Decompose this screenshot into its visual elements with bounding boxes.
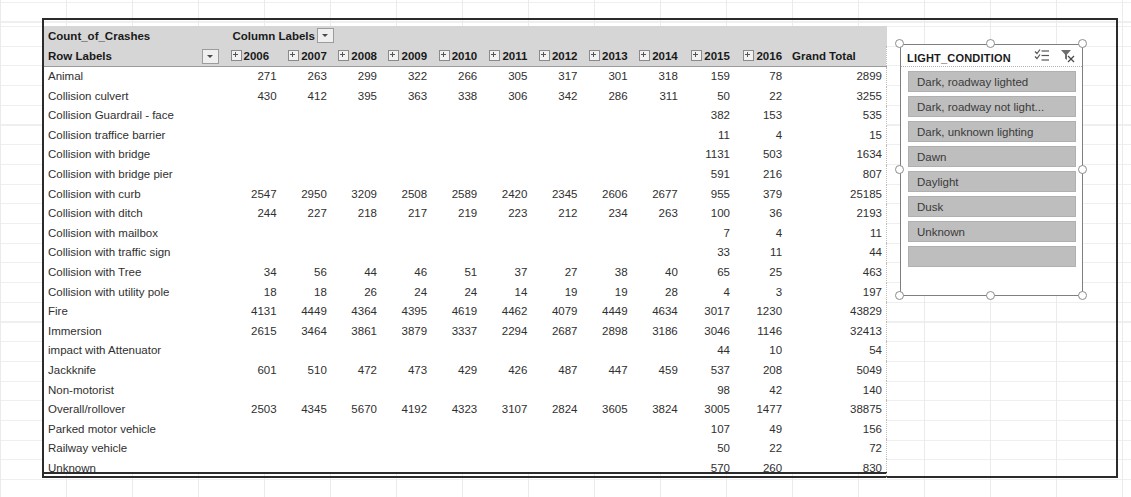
data-cell[interactable]: 234 xyxy=(582,204,632,224)
data-cell[interactable] xyxy=(531,420,581,440)
data-cell[interactable] xyxy=(481,420,531,440)
data-cell[interactable] xyxy=(381,126,431,146)
data-cell[interactable]: 65 xyxy=(682,263,734,283)
data-cell[interactable]: 44 xyxy=(331,263,381,283)
resize-handle-top-right[interactable] xyxy=(1078,39,1087,48)
data-cell[interactable]: 50 xyxy=(682,87,734,107)
data-cell[interactable] xyxy=(582,341,632,361)
data-cell[interactable] xyxy=(381,439,431,459)
data-cell[interactable]: 38 xyxy=(582,263,632,283)
table-row[interactable]: Collision with mailbox7411 xyxy=(44,224,887,244)
data-cell[interactable]: 395 xyxy=(331,87,381,107)
data-cell[interactable]: 591 xyxy=(682,165,734,185)
data-cell[interactable] xyxy=(582,126,632,146)
data-cell[interactable]: 447 xyxy=(582,361,632,381)
data-cell[interactable] xyxy=(481,165,531,185)
data-cell[interactable] xyxy=(531,126,581,146)
data-cell[interactable]: 3861 xyxy=(331,322,381,342)
data-cell[interactable]: 25 xyxy=(734,263,786,283)
data-cell[interactable]: 299 xyxy=(331,67,381,87)
row-grand-total-cell[interactable]: 197 xyxy=(786,283,886,303)
data-cell[interactable]: 2898 xyxy=(582,322,632,342)
data-cell[interactable] xyxy=(225,420,281,440)
resize-handle-top-left[interactable] xyxy=(895,39,904,48)
data-cell[interactable] xyxy=(281,165,331,185)
table-row[interactable]: Collision Guardrail - face382153535 xyxy=(44,106,887,126)
row-label-cell[interactable]: Railway vehicle xyxy=(44,439,225,459)
data-cell[interactable] xyxy=(281,145,331,165)
data-cell[interactable] xyxy=(632,145,682,165)
data-cell[interactable] xyxy=(381,459,431,479)
data-cell[interactable] xyxy=(531,106,581,126)
data-cell[interactable] xyxy=(331,224,381,244)
table-row[interactable]: Collision with ditch24422721821721922321… xyxy=(44,204,887,224)
data-cell[interactable] xyxy=(531,439,581,459)
table-row[interactable]: Collision with traffic sign331144 xyxy=(44,243,887,263)
data-cell[interactable]: 51 xyxy=(431,263,481,283)
column-labels-filter-button[interactable] xyxy=(317,28,334,43)
resize-handle-bottom-center[interactable] xyxy=(986,291,995,300)
data-cell[interactable] xyxy=(431,145,481,165)
data-cell[interactable] xyxy=(225,165,281,185)
table-row[interactable]: Collision with bridge11315031634 xyxy=(44,145,887,165)
data-cell[interactable]: 4634 xyxy=(632,302,682,322)
row-label-cell[interactable]: Collision with curb xyxy=(44,185,225,205)
data-cell[interactable]: 10 xyxy=(734,341,786,361)
data-cell[interactable]: 208 xyxy=(734,361,786,381)
table-row[interactable]: Collision with Tree345644465137273840652… xyxy=(44,263,887,283)
data-cell[interactable]: 510 xyxy=(281,361,331,381)
data-cell[interactable] xyxy=(381,341,431,361)
table-row[interactable]: Collision with utility pole1818262424141… xyxy=(44,283,887,303)
data-cell[interactable]: 2677 xyxy=(632,185,682,205)
data-cell[interactable]: 14 xyxy=(481,283,531,303)
row-label-cell[interactable]: Collision traffice barrier xyxy=(44,126,225,146)
expand-icon[interactable] xyxy=(743,50,754,61)
data-cell[interactable] xyxy=(531,381,581,401)
data-cell[interactable]: 4323 xyxy=(431,400,481,420)
row-label-cell[interactable]: Fire xyxy=(44,302,225,322)
data-cell[interactable] xyxy=(431,439,481,459)
table-row[interactable]: Collision traffice barrier11415 xyxy=(44,126,887,146)
table-row[interactable]: Overall/rollover250343455670419243233107… xyxy=(44,400,887,420)
data-cell[interactable]: 429 xyxy=(431,361,481,381)
data-cell[interactable]: 4462 xyxy=(481,302,531,322)
data-cell[interactable]: 338 xyxy=(431,87,481,107)
resize-handle-bottom-left[interactable] xyxy=(895,291,904,300)
data-cell[interactable] xyxy=(225,341,281,361)
data-cell[interactable]: 26 xyxy=(331,283,381,303)
data-cell[interactable] xyxy=(531,459,581,479)
data-cell[interactable]: 227 xyxy=(281,204,331,224)
data-cell[interactable]: 4131 xyxy=(225,302,281,322)
data-cell[interactable]: 46 xyxy=(381,263,431,283)
data-cell[interactable]: 472 xyxy=(331,361,381,381)
data-cell[interactable]: 18 xyxy=(225,283,281,303)
data-cell[interactable] xyxy=(381,165,431,185)
data-cell[interactable]: 4619 xyxy=(431,302,481,322)
table-row[interactable]: Collision with curb254729503209250825892… xyxy=(44,185,887,205)
data-cell[interactable]: 379 xyxy=(734,185,786,205)
slicer-item[interactable]: Dark, unknown lighting xyxy=(908,121,1076,142)
data-cell[interactable]: 2950 xyxy=(281,185,331,205)
row-grand-total-cell[interactable]: 32413 xyxy=(786,322,886,342)
table-row[interactable]: Fire413144494364439546194462407944494634… xyxy=(44,302,887,322)
year-header-2012[interactable]: 2012 xyxy=(531,46,581,67)
data-cell[interactable]: 363 xyxy=(381,87,431,107)
year-header-2007[interactable]: 2007 xyxy=(281,46,331,67)
data-cell[interactable] xyxy=(632,439,682,459)
data-cell[interactable] xyxy=(281,224,331,244)
data-cell[interactable]: 50 xyxy=(682,439,734,459)
table-row[interactable]: Animal2712632993222663053173013181597828… xyxy=(44,67,887,87)
data-cell[interactable]: 24 xyxy=(381,283,431,303)
data-cell[interactable] xyxy=(632,126,682,146)
data-cell[interactable] xyxy=(481,145,531,165)
data-cell[interactable] xyxy=(632,381,682,401)
data-cell[interactable]: 2547 xyxy=(225,185,281,205)
data-cell[interactable]: 37 xyxy=(481,263,531,283)
data-cell[interactable] xyxy=(431,126,481,146)
data-cell[interactable] xyxy=(582,439,632,459)
data-cell[interactable] xyxy=(281,459,331,479)
row-label-cell[interactable]: Collision with utility pole xyxy=(44,283,225,303)
data-cell[interactable]: 601 xyxy=(225,361,281,381)
row-grand-total-cell[interactable]: 1634 xyxy=(786,145,886,165)
data-cell[interactable]: 11 xyxy=(682,126,734,146)
